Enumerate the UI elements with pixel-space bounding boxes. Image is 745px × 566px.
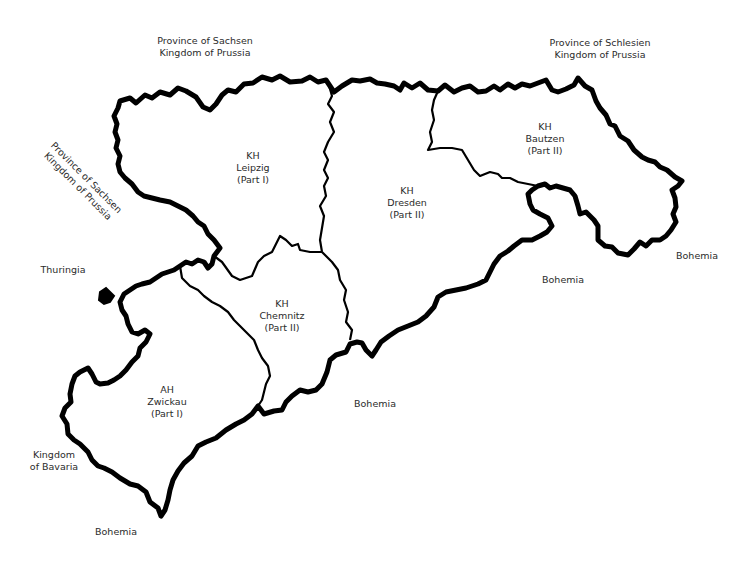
district-label-bautzen: KH Bautzen (Part II) [526,121,565,157]
neighbor-label-bohemia-s: Bohemia [354,398,396,410]
district-name: Leipzig [236,162,269,174]
neighbor-line: Province of Schlesien [550,37,651,49]
boundary-dresden-chemnitz [322,252,352,340]
district-part: (Part I) [147,408,186,420]
district-label-chemnitz: KH Chemnitz (Part II) [259,298,304,334]
district-type: KH [259,298,304,310]
neighbor-label-sachsen-north: Province of Sachsen Kingdom of Prussia [157,35,253,59]
neighbor-label-thuringia: Thuringia [41,264,86,276]
district-label-dresden: KH Dresden (Part II) [387,185,427,221]
district-part: (Part II) [387,209,427,221]
neighbor-line: Kingdom of Prussia [550,49,651,61]
neighbor-line: Kingdom of Prussia [157,47,253,59]
district-type: KH [526,121,565,133]
boundary-chemnitz-zwickau [180,266,270,406]
district-name: Zwickau [147,396,186,408]
neighbor-line: Bohemia [542,274,584,286]
district-name: Bautzen [526,133,565,145]
neighbor-label-bavaria: Kingdom of Bavaria [30,449,78,473]
map-canvas [0,0,745,566]
neighbor-label-bohemia-e: Bohemia [676,250,718,262]
neighbor-line: Bohemia [676,250,718,262]
district-part: (Part II) [259,322,304,334]
district-name: Dresden [387,197,427,209]
neighbor-line: Thuringia [41,264,86,276]
district-part: (Part I) [236,174,269,186]
outer-border [62,76,682,516]
district-type: KH [236,150,269,162]
boundary-leipzig-chemnitz [214,236,322,280]
neighbor-line: Bohemia [95,526,137,538]
neighbor-line: Kingdom [30,449,78,461]
neighbor-line: of Bavaria [30,461,78,473]
district-label-zwickau: AH Zwickau (Part I) [147,384,186,420]
exclave-border [99,288,114,304]
boundary-leipzig-dresden [320,82,334,252]
district-type: KH [387,185,427,197]
neighbor-label-bohemia-sw: Bohemia [95,526,137,538]
district-type: AH [147,384,186,396]
boundary-dresden-bautzen [428,91,538,186]
neighbor-line: Province of Sachsen [157,35,253,47]
district-part: (Part II) [526,145,565,157]
neighbor-label-bohemia-se: Bohemia [542,274,584,286]
district-name: Chemnitz [259,310,304,322]
neighbor-line: Bohemia [354,398,396,410]
neighbor-label-schlesien: Province of Schlesien Kingdom of Prussia [550,37,651,61]
district-label-leipzig: KH Leipzig (Part I) [236,150,269,186]
